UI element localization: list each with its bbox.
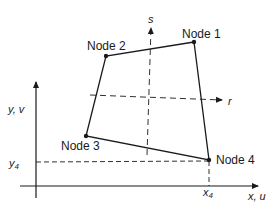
x4-label: x4 — [202, 186, 214, 200]
node-3-label: Node 3 — [61, 139, 100, 153]
node-3-dot — [84, 134, 88, 138]
node-4-dot — [207, 158, 211, 162]
node-2-dot — [104, 54, 108, 58]
node-1-label: Node 1 — [182, 27, 221, 41]
node4-projections — [36, 161, 209, 186]
y4-projection-line — [36, 161, 209, 162]
quadrilateral-element-diagram: Node 1 Node 2 Node 3 Node 4 s r y, v x, … — [0, 0, 278, 210]
y4-subscript: 4 — [15, 162, 20, 171]
y-axis-label: y, v — [7, 103, 26, 115]
axis-labels: s r y, v x, u y4 x4 — [7, 13, 266, 202]
x4-subscript: 4 — [209, 191, 214, 200]
x-axis-label: x, u — [247, 190, 266, 202]
r-axis-label: r — [228, 95, 233, 107]
node-2-label: Node 2 — [87, 39, 126, 53]
node-4-label: Node 4 — [216, 153, 255, 167]
s-axis — [147, 28, 151, 155]
r-axis — [90, 95, 222, 100]
s-axis-label: s — [148, 13, 154, 25]
y4-label: y4 — [8, 157, 20, 171]
global-axes — [20, 82, 258, 198]
